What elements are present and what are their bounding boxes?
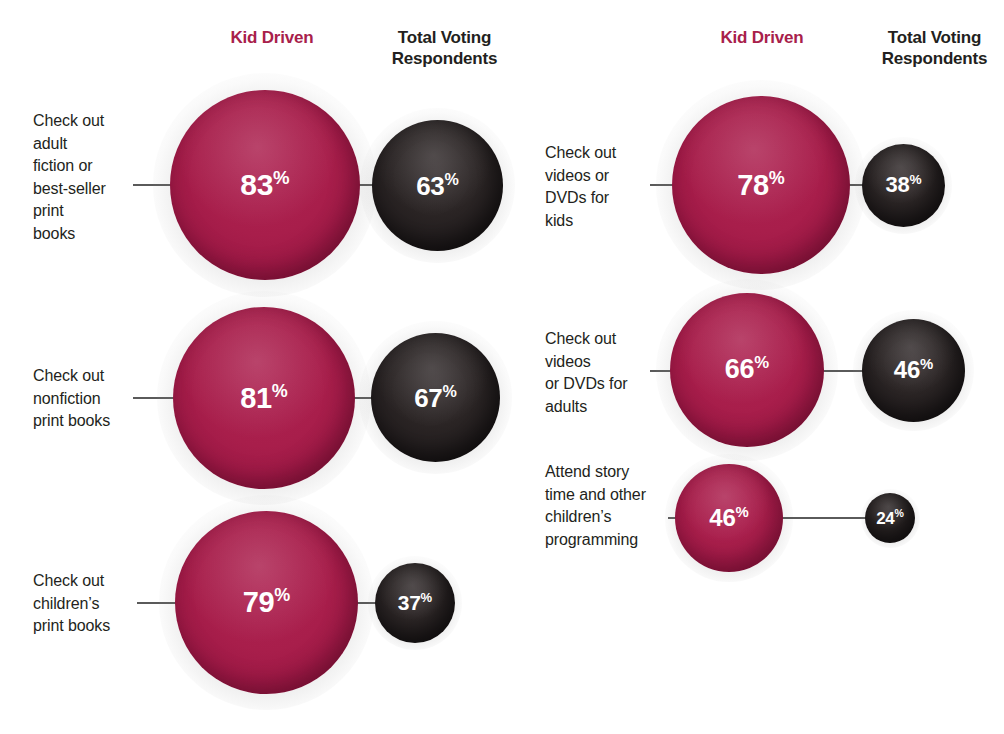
bubble-value: 78% <box>737 169 785 200</box>
bubble-value-number: 46 <box>709 504 735 531</box>
bubble-value-number: 38 <box>886 172 910 197</box>
bubble-kid-driven-adult-fiction-print-books[interactable]: 83% <box>170 90 360 280</box>
bubble-value: 63% <box>416 171 459 199</box>
percent-symbol: % <box>272 381 288 401</box>
bubble-value: 37% <box>398 591 432 613</box>
column-header-total-voting-left: Total Voting Respondents <box>382 27 507 69</box>
bubble-value-number: 46 <box>894 356 920 383</box>
bubble-value: 24% <box>876 508 904 527</box>
percent-symbol: % <box>735 504 748 520</box>
percent-symbol: % <box>909 172 921 187</box>
bubble-value: 38% <box>886 173 922 196</box>
bubble-chart: Kid Driven Total Voting Respondents Kid … <box>0 0 1004 734</box>
bubble-kid-driven-nonfiction-print-books[interactable]: 81% <box>173 307 355 489</box>
bubble-value-number: 24 <box>876 508 894 527</box>
bubble-total-voting-nonfiction-print-books[interactable]: 67% <box>371 333 500 462</box>
row-label-videos-dvds-adults: Check out videos or DVDs for adults <box>545 328 670 418</box>
bubble-value: 46% <box>709 505 748 530</box>
row-label-videos-dvds-kids: Check out videos or DVDs for kids <box>545 142 663 232</box>
bubble-value: 81% <box>240 382 288 413</box>
percent-symbol: % <box>769 168 785 188</box>
bubble-total-voting-childrens-print-books[interactable]: 37% <box>375 563 455 643</box>
percent-symbol: % <box>273 167 290 188</box>
bubble-value: 66% <box>725 355 769 383</box>
column-header-total-voting-right: Total Voting Respondents <box>872 27 997 69</box>
percent-symbol: % <box>274 585 290 605</box>
bubble-value: 46% <box>894 357 933 382</box>
connector-line-row-2-right-inner <box>818 370 868 372</box>
connector-line-row-3-right-inner <box>778 517 870 519</box>
row-label-story-time-programming: Attend story time and other children’s p… <box>545 461 680 551</box>
percent-symbol: % <box>894 507 903 519</box>
bubble-total-voting-videos-dvds-adults[interactable]: 46% <box>862 319 965 422</box>
bubble-value: 67% <box>414 383 457 411</box>
bubble-kid-driven-videos-dvds-kids[interactable]: 78% <box>672 96 850 274</box>
bubble-total-voting-adult-fiction-print-books[interactable]: 63% <box>372 120 503 251</box>
bubble-kid-driven-videos-dvds-adults[interactable]: 66% <box>670 293 824 447</box>
bubble-value-number: 81 <box>240 381 272 413</box>
bubble-value-number: 66 <box>725 354 754 384</box>
bubble-total-voting-story-time-programming[interactable]: 24% <box>865 493 915 543</box>
row-label-adult-fiction-print-books: Check out adult fiction or best-seller p… <box>33 110 153 245</box>
bubble-kid-driven-childrens-print-books[interactable]: 79% <box>175 511 358 694</box>
bubble-value-number: 78 <box>737 168 769 200</box>
bubble-value: 83% <box>240 169 289 200</box>
bubble-kid-driven-story-time-programming[interactable]: 46% <box>675 464 783 572</box>
percent-symbol: % <box>445 170 459 188</box>
bubble-value-number: 37 <box>398 591 421 614</box>
bubble-value-number: 67 <box>414 382 442 412</box>
column-header-kid-driven-left: Kid Driven <box>222 27 322 48</box>
bubble-value-number: 79 <box>243 586 275 618</box>
bubble-value: 79% <box>243 586 291 617</box>
bubble-total-voting-videos-dvds-kids[interactable]: 38% <box>862 144 945 227</box>
percent-symbol: % <box>920 356 933 372</box>
percent-symbol: % <box>443 382 457 400</box>
percent-symbol: % <box>754 353 769 372</box>
bubble-value-number: 63 <box>416 170 444 200</box>
percent-symbol: % <box>421 590 433 605</box>
bubble-value-number: 83 <box>240 168 273 201</box>
column-header-kid-driven-right: Kid Driven <box>712 27 812 48</box>
